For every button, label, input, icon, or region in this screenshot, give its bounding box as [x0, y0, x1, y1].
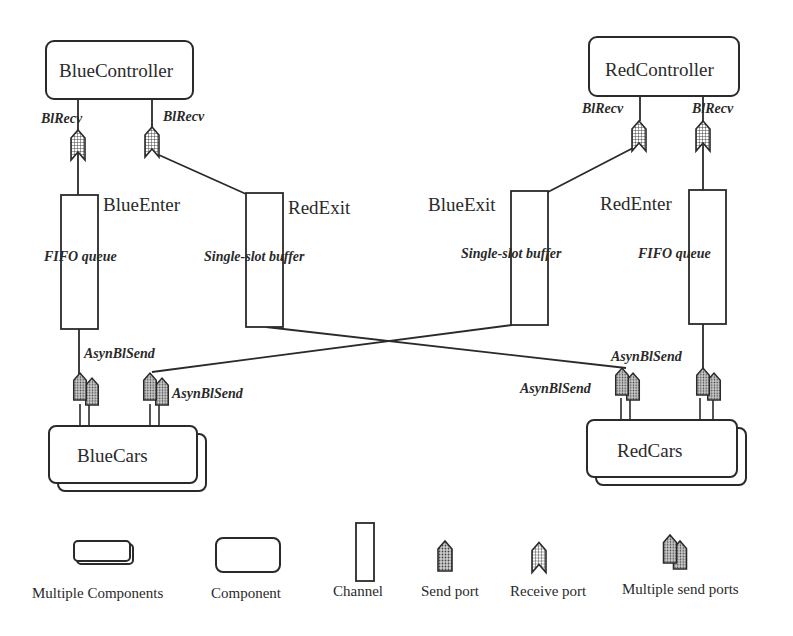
send-port-icon	[144, 373, 157, 400]
send-port-label: AsynBlSend	[83, 346, 156, 361]
channel-type: Single-slot buffer	[204, 249, 305, 264]
channel-icon	[356, 523, 374, 581]
channel-name: RedExit	[288, 197, 351, 218]
channel-blue-exit[interactable]: BlueExit Single-slot buffer	[428, 191, 562, 325]
send-port-icon	[156, 378, 169, 405]
channel-name: RedEnter	[600, 193, 672, 214]
channel-name: BlueExit	[428, 194, 496, 215]
legend-label: Multiple send ports	[622, 581, 739, 597]
legend-label: Send port	[421, 583, 480, 599]
send-port-label: AsynBlSend	[610, 349, 683, 364]
legend-multiple-send-ports: Multiple send ports	[622, 535, 739, 597]
red-cars-label: RedCars	[617, 440, 682, 461]
architecture-diagram: BlueController RedController BlRecv BlRe…	[0, 0, 793, 636]
send-port-label: AsynBlSend	[171, 386, 244, 401]
red-cars[interactable]: RedCars	[587, 420, 746, 485]
channel-type: FIFO queue	[43, 249, 117, 264]
send-port-icon	[697, 368, 710, 395]
component-icon	[216, 538, 280, 572]
blue-cars-label: BlueCars	[77, 445, 148, 466]
send-port-icon	[438, 541, 452, 571]
receive-port-icon	[632, 121, 646, 151]
channel-red-enter[interactable]: RedEnter FIFO queue	[600, 190, 726, 324]
legend-multiple-components: Multiple Components	[32, 541, 163, 601]
legend-channel: Channel	[333, 523, 383, 599]
channel-name: BlueEnter	[103, 194, 181, 215]
red-cars-send-port-1[interactable]	[616, 368, 640, 420]
blue-controller-receive-port-2[interactable]	[145, 127, 159, 157]
connections	[78, 96, 703, 374]
receive-port-label: BlRecv	[581, 101, 624, 116]
blue-controller[interactable]: BlueController	[46, 41, 193, 99]
red-cars-send-port-2[interactable]	[697, 368, 721, 420]
red-controller-receive-port-1[interactable]	[632, 121, 646, 151]
legend: Multiple Components Component Channel Se…	[32, 523, 739, 601]
blue-cars-send-port-2[interactable]	[144, 373, 169, 426]
receive-port-label: BlRecv	[162, 109, 205, 124]
send-port-label: AsynBlSend	[519, 381, 592, 396]
legend-receive-port: Receive port	[510, 543, 587, 600]
channel-blue-enter[interactable]: BlueEnter FIFO queue	[43, 194, 181, 329]
send-port-icon	[616, 368, 629, 395]
channel-type: FIFO queue	[637, 246, 711, 261]
legend-send-port: Send port	[421, 541, 480, 599]
receive-port-icon	[532, 543, 546, 573]
channel-type: Single-slot buffer	[461, 246, 562, 261]
send-port-icon	[86, 378, 99, 405]
blue-cars-send-port-1[interactable]	[74, 373, 99, 426]
red-controller-label: RedController	[605, 59, 714, 80]
legend-component: Component	[211, 538, 282, 601]
receive-port-label: BlRecv	[691, 101, 734, 116]
blue-controller-label: BlueController	[59, 60, 174, 81]
legend-label: Component	[211, 585, 282, 601]
receive-port-label: BlRecv	[40, 111, 83, 126]
send-port-icon	[74, 373, 87, 400]
legend-label: Multiple Components	[32, 585, 163, 601]
legend-label: Channel	[333, 583, 383, 599]
receive-port-icon	[145, 127, 159, 157]
red-controller[interactable]: RedController	[589, 37, 739, 96]
blue-cars[interactable]: BlueCars	[49, 426, 206, 491]
legend-label: Receive port	[510, 583, 587, 599]
multiple-send-ports-icon	[663, 535, 676, 563]
channel-red-exit[interactable]: RedExit Single-slot buffer	[204, 193, 351, 327]
